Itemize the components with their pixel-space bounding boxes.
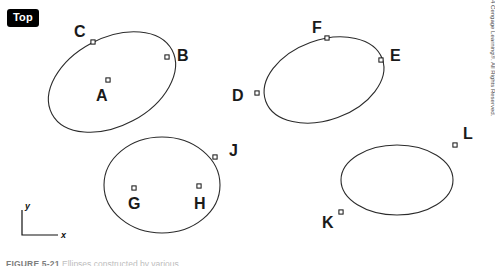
ucs-axis-icon [22,210,58,235]
figure-caption: FIGURE 5-21 Ellipses constructed by vari… [6,259,179,266]
figure-caption-number: FIGURE 5-21 [6,259,60,266]
point-marker-group [91,36,457,214]
point-h-label: H [194,196,206,212]
axis-label-x: x [61,231,66,240]
figure-caption-text: Ellipses constructed by various [62,259,179,266]
point-a-label: A [96,88,108,104]
ellipse-g [104,137,220,233]
point-l-label: L [463,126,473,142]
viewport-label-badge: Top [7,9,39,27]
point-c-label: C [74,24,86,40]
point-g-label: G [128,196,140,212]
point-k-label: K [322,215,334,231]
ellipse-a [31,11,192,153]
point-f-marker[interactable] [325,36,329,40]
point-b-label: B [177,48,189,64]
point-k-marker[interactable] [339,210,343,214]
figure-container: Top ABCDEFGHJKL y x © 2014 Cengage Learn… [0,0,495,266]
point-j-marker[interactable] [213,155,217,159]
point-f-label: F [312,20,322,36]
point-h-marker[interactable] [197,184,201,188]
ellipse-d [252,21,396,139]
point-b-marker[interactable] [165,55,169,59]
point-e-marker[interactable] [379,58,383,62]
axis-label-y: y [25,202,30,211]
ellipse-k [341,145,453,215]
point-j-label: J [229,143,238,159]
point-d-marker[interactable] [255,91,259,95]
point-d-label: D [232,88,244,104]
point-e-label: E [390,48,401,64]
point-c-marker[interactable] [91,40,95,44]
point-l-marker[interactable] [453,143,457,147]
point-a-marker[interactable] [106,78,110,82]
point-g-marker[interactable] [132,186,136,190]
copyright-notice: © 2014 Cengage Learning®. All Rights Res… [490,0,495,116]
